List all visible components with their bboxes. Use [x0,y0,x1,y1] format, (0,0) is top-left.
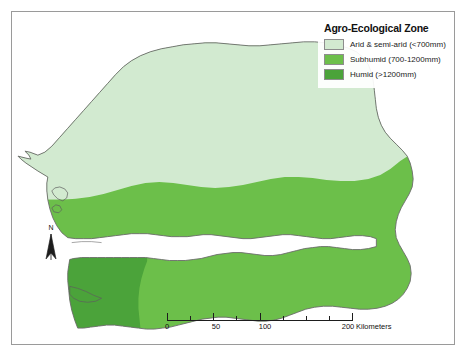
scale-tick [260,313,261,321]
scale-tick [283,316,284,321]
scale-tick [213,313,214,321]
legend-item-arid-semi-arid[interactable]: Arid & semi-arid (<700mm) [324,38,454,50]
scale-tick [190,316,191,321]
scale-tick [352,313,353,321]
scale-bar-labels: 0 50 100 200 Kilometers [164,322,364,332]
saloum-estuary-detail [72,242,102,243]
north-arrow-icon [40,232,62,262]
scale-units-label: Kilometers [356,322,391,331]
scale-tick [329,316,330,321]
scale-tick [167,313,168,321]
map-page: Agro-Ecological Zone Arid & semi-arid (<… [0,0,466,356]
map-legend: Agro-Ecological Zone Arid & semi-arid (<… [318,18,455,88]
scale-bar: 0 50 100 200 Kilometers [164,312,364,334]
scale-label-50: 50 [212,322,220,331]
scale-tick [306,316,307,321]
scale-tick [236,316,237,321]
scale-bar-ticks [167,312,352,321]
scale-label-200: 200 [342,322,355,331]
legend-item-humid[interactable]: Humid (>1200mm) [324,68,454,80]
legend-title: Agro-Ecological Zone [324,22,454,34]
legend-swatch-subhumid [324,54,344,65]
north-arrow-label: N [40,224,62,232]
legend-label-humid: Humid (>1200mm) [350,69,416,80]
legend-label-subhumid: Subhumid (700-1200mm) [350,54,441,65]
legend-swatch-arid-semi-arid [324,39,344,50]
map-frame: Agro-Ecological Zone Arid & semi-arid (<… [11,11,455,345]
scale-label-0: 0 [165,322,169,331]
scale-label-100: 100 [259,322,272,331]
north-arrow: N [40,224,62,264]
legend-label-arid-semi-arid: Arid & semi-arid (<700mm) [350,39,446,50]
legend-item-subhumid[interactable]: Subhumid (700-1200mm) [324,53,454,65]
legend-swatch-humid [324,69,344,80]
